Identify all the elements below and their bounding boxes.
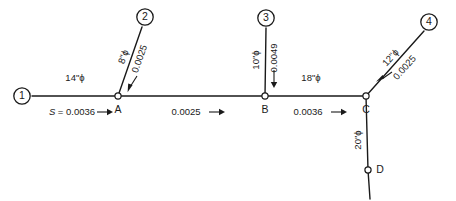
flow-arrow-B-C (331, 109, 347, 115)
slope-label-segment-A-B: 0.0025 (171, 106, 200, 117)
slope-label-segment-1-A: S = 0.0036 (49, 106, 95, 117)
node-label-C: C (362, 103, 370, 115)
manhole-label-2: 2 (142, 10, 148, 22)
node-label-A: A (114, 103, 121, 115)
node-marker-A (115, 93, 121, 99)
pipe-network-diagram: 1 2 3 4 A B C D 14"ϕ S = 0.0036 0.0025 1… (0, 0, 456, 201)
diameter-label-20in: 20"ϕ (352, 130, 363, 149)
diameter-label-14in: 14"ϕ (65, 72, 84, 83)
slope-label-segment-2-A: 0.0025 (129, 43, 149, 74)
slope-value-1-A: = 0.0036 (55, 106, 95, 117)
pipe-segment-4-C (366, 31, 424, 96)
diameter-label-18in: 18"ϕ (301, 72, 320, 83)
pipe-line-D-outfall (368, 170, 370, 199)
manhole-label-3: 3 (263, 11, 269, 23)
manhole-label-4: 4 (426, 15, 432, 27)
slope-label-segment-3-B: 0.0049 (268, 43, 279, 72)
pipe-line-4-C (366, 31, 424, 96)
manhole-label-1: 1 (19, 89, 25, 101)
flow-arrow-4-C (376, 72, 392, 82)
node-marker-D (365, 167, 371, 173)
node-label-D: D (376, 163, 384, 175)
diameter-label-8in: 8"ϕ (116, 48, 131, 65)
flow-arrow-A-B (209, 109, 225, 115)
diameter-label-10in: 10"ϕ (250, 50, 261, 69)
node-marker-C (363, 93, 369, 99)
network-schematic-canvas: 1 2 3 4 A B C D 14"ϕ S = 0.0036 0.0025 1… (0, 0, 456, 201)
diameter-label-12in: 12"ϕ (380, 47, 401, 69)
pipe-line-3-B (265, 28, 266, 96)
node-label-B: B (261, 103, 268, 115)
pipe-segment-3-B (265, 28, 266, 96)
node-marker-B (262, 93, 268, 99)
flow-arrow-2-A (128, 76, 137, 92)
flow-arrow-1-A (97, 109, 113, 115)
slope-label-segment-B-C: 0.0036 (293, 106, 322, 117)
